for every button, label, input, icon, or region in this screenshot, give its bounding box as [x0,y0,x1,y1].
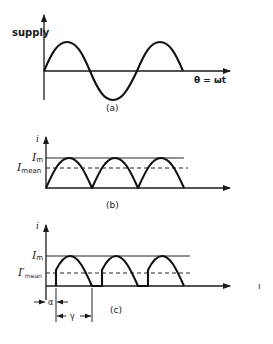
caption-c: (c) [110,305,122,315]
panel-a: supply θ = ωt (a) [12,15,230,113]
rectifier-waveform-figure: supply θ = ωt (a) i Im Imean (b) i Im I′… [0,0,273,344]
caption-b: (b) [106,200,119,210]
caption-a: (a) [106,103,119,113]
supply-label: supply [12,27,50,38]
im-label-b: Im [31,151,43,164]
imean-prime-label-c: I′mean [17,266,42,279]
alpha-dimension: α [34,288,68,322]
panel-b: i Im Imean (b) [16,134,230,210]
phase-controlled-rectified-current [56,256,184,286]
theta-omega-t-label: θ = ωt [194,75,227,85]
im-label-c: Im [31,249,43,262]
stray-mark: ı [258,281,261,291]
i-axis-label-c: i [36,221,39,231]
full-wave-rectified-current [46,158,184,188]
i-axis-label-b: i [36,134,39,144]
alpha-label: α [48,298,53,307]
panel-c: i Im I′mean α γ (c) [17,221,230,322]
gamma-label: γ [70,312,75,321]
gamma-dimension: γ [57,288,92,322]
